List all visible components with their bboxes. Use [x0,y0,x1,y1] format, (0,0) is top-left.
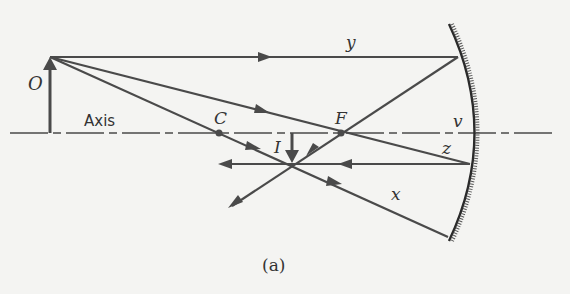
ray-x-arrow-icon [245,141,261,150]
diagram-canvas: O Axis C F I v y z x (a) [0,0,570,294]
focus-point [338,130,345,137]
ray-y-arrow-icon [258,52,272,62]
ray-z-reflected-arrow-icon [338,159,352,169]
ray-y-label: y [345,32,356,52]
focus-label: F [334,108,348,128]
center-point [216,130,223,137]
ray-diagram: O Axis C F I v y z x (a) [0,0,570,294]
center-label: C [214,108,227,128]
vertex-label: v [453,111,463,131]
ray-x-reflected-arrow-icon [326,176,342,186]
ray-z-arrow-icon [254,104,270,113]
ray-z-label: z [441,138,452,158]
object-label: O [28,73,43,94]
image-label: I [273,137,281,157]
axis-label: Axis [84,112,115,130]
object-arrow [43,57,57,133]
ray-x-label: x [391,184,401,204]
ray-z-end-arrow-icon [218,159,232,169]
figure-caption: (a) [262,255,285,275]
ray-y-end-arrow-icon [228,195,243,208]
image-arrow [285,133,299,163]
